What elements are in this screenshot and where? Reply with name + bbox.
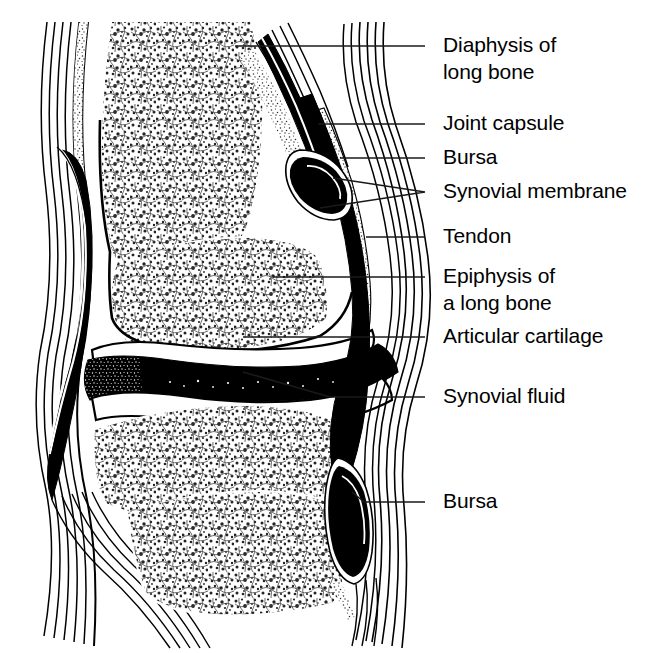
label-tendon: Tendon: [443, 224, 511, 247]
label-joint-capsule: Joint capsule: [443, 111, 564, 134]
label-synovial-fluid: Synovial fluid: [443, 384, 565, 407]
label-epiphysis-line1: Epiphysis of: [443, 264, 555, 287]
label-bursa-upper: Bursa: [443, 145, 498, 168]
label-bursa-lower: Bursa: [443, 489, 498, 512]
diagram-canvas: Diaphysis of long bone Joint capsule Bur…: [0, 0, 672, 653]
label-epiphysis-line2: a long bone: [443, 291, 552, 314]
label-diaphysis-line2: long bone: [443, 60, 534, 83]
joint-diagram-figure: Diaphysis of long bone Joint capsule Bur…: [0, 0, 672, 653]
label-articular-cartilage: Articular cartilage: [443, 324, 603, 347]
label-synovial-membrane: Synovial membrane: [443, 179, 627, 202]
label-diaphysis-line1: Diaphysis of: [443, 33, 556, 56]
